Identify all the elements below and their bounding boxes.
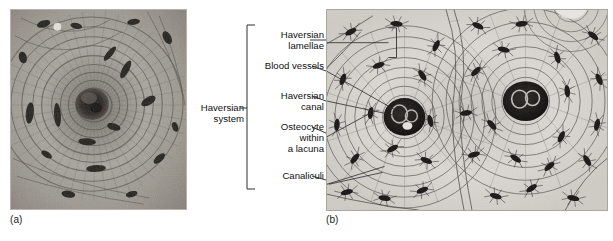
panel-b-caption: (b): [326, 214, 339, 225]
label-osteocyte-line3: a lacuna: [281, 143, 324, 154]
figure-root: (a) Haversian system Haversian lamellae …: [0, 0, 613, 241]
label-canaliculi-line1: Canaliculi: [282, 170, 324, 181]
haversian-system-label-line2: system: [182, 113, 244, 124]
label-column: Haversian lamellae Blood vessels Haversi…: [246, 0, 324, 241]
label-osteocyte-line1: Osteocyte: [281, 121, 324, 132]
haversian-system-bracket-label: Haversian system: [182, 102, 244, 125]
label-blood-vessels-line1: Blood vessels: [265, 60, 324, 71]
label-haversian-lamellae-line1: Haversian: [281, 29, 324, 40]
label-haversian-canal-line1: Haversian: [281, 90, 324, 101]
panel-a-caption: (a): [10, 214, 23, 225]
label-blood-vessels: Blood vessels: [265, 60, 324, 71]
haversian-system-label-line1: Haversian: [182, 102, 244, 113]
label-canaliculi: Canaliculi: [282, 170, 324, 181]
label-haversian-canal: Haversian canal: [281, 90, 324, 112]
osteon-diagram: [327, 10, 607, 210]
label-haversian-lamellae-line2: lamellae: [281, 40, 324, 51]
panel-a-photomicrograph: [10, 9, 187, 210]
label-haversian-lamellae: Haversian lamellae: [281, 29, 324, 51]
label-osteocyte-within-a-lacuna: Osteocyte within a lacuna: [281, 121, 324, 155]
haversian-system-micrograph: [11, 10, 186, 209]
label-haversian-canal-line2: canal: [281, 101, 324, 112]
panel-b-line-drawing: [326, 9, 608, 211]
label-osteocyte-line2: within: [281, 132, 324, 143]
